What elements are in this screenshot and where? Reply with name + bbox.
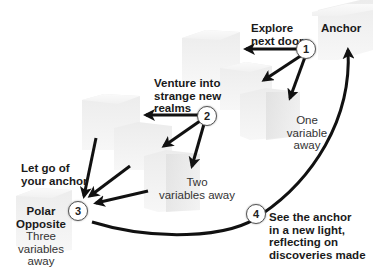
node-one-away-line2: variable away xyxy=(272,127,342,152)
node-one-away-label: One variable away xyxy=(272,114,342,152)
step-3-caption: Let go of your anchor xyxy=(21,162,87,187)
step-1-badge: 1 xyxy=(296,39,316,59)
step-4-line3: reflecting on xyxy=(269,236,366,249)
step-1-line1: Explore xyxy=(251,22,303,35)
step-2-line2: strange new xyxy=(154,90,221,103)
node-two-away-label: Two variables away xyxy=(152,176,242,201)
step-2-badge: 2 xyxy=(197,106,217,126)
node-two-away-line1: Two xyxy=(152,176,242,189)
step-4-badge: 4 xyxy=(246,204,266,224)
node-two-away-line2: variables away xyxy=(152,189,242,202)
step-4-caption: See the anchor in a new light, reflectin… xyxy=(269,211,366,261)
node-one-away-line1: One xyxy=(272,114,342,127)
node-polar-title-line1: Polar xyxy=(10,205,72,218)
node-polar-sub-line2: variables away xyxy=(10,243,72,268)
step-4-line4: discoveries made xyxy=(269,249,366,262)
diagram-canvas: Anchor One variable away Two variables a… xyxy=(0,0,373,270)
step-3-badge: 3 xyxy=(68,201,88,221)
node-polar-sub-line1: Three xyxy=(10,230,72,243)
node-polar-title-line2: Opposite xyxy=(10,218,72,231)
step-1-caption: Explore next door xyxy=(251,22,303,47)
step-3-line2: your anchor xyxy=(21,175,87,188)
step-2-line1: Venture into xyxy=(154,77,221,90)
node-polar-label: Polar Opposite Three variables away xyxy=(10,205,72,268)
step-4-line2: in a new light, xyxy=(269,224,366,237)
step-3-line1: Let go of xyxy=(21,162,87,175)
node-anchor-label: Anchor xyxy=(321,22,361,35)
step-4-line1: See the anchor xyxy=(269,211,366,224)
